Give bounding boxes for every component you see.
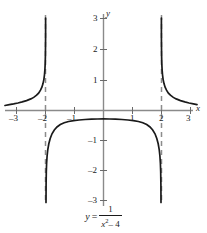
y-tick-label-minus-3: –3 [88,196,97,205]
equation-caption: y= 1 x2– 4 [0,205,207,229]
equation-equals: = [90,212,100,222]
equation-numerator: 1 [99,205,122,215]
x-tick-label-minus-1: –1 [67,114,76,123]
x-tick-label-3: 3 [186,114,191,123]
x-tick-label-1: 1 [130,114,135,123]
y-tick-label-3: 3 [93,14,98,23]
curve-left-branch [5,18,46,106]
y-tick-label-1: 1 [93,76,98,85]
y-tick-label-minus-1: –1 [88,136,97,145]
plot-canvas [0,0,207,233]
curve-right-branch [161,18,197,105]
function-graph-figure: –3 –2 –1 1 2 3 3 2 1 –1 –2 –3 y x y= 1 x… [0,0,207,233]
x-tick-label-2: 2 [159,114,164,123]
equation-fraction: 1 x2– 4 [99,205,122,229]
equation-denominator: x2– 4 [99,217,122,230]
equation-denominator-minus-four: – 4 [109,219,120,229]
y-tick-label-2: 2 [93,45,98,54]
x-axis-label: x [196,104,200,113]
y-tick-label-minus-2: –2 [88,166,97,175]
x-tick-label-minus-3: –3 [9,114,18,123]
y-axis-label: y [106,9,110,18]
x-tick-label-minus-2: –2 [38,114,47,123]
